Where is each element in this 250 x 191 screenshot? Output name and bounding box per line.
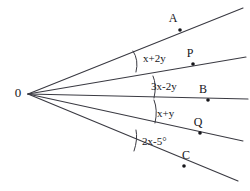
arc-angle-boq: [154, 100, 156, 123]
point-label-a: A: [169, 11, 178, 25]
point-label-q: Q: [194, 115, 203, 129]
arc-angle-qoc: [134, 130, 137, 151]
arc-angle-aop: [133, 51, 137, 72]
point-dot-b: [206, 98, 210, 102]
angle-label-boq: x+y: [157, 107, 175, 119]
ray-ob: [28, 94, 248, 99]
point-dot-c: [182, 164, 186, 168]
vertex-label-o: 0: [15, 85, 22, 100]
point-label-c: C: [182, 148, 190, 162]
point-label-p: P: [187, 46, 194, 60]
ray-oc: [28, 94, 238, 181]
ray-oq: [28, 94, 243, 141]
point-dot-p: [191, 62, 195, 66]
angle-label-qoc: 2x-5°: [142, 135, 167, 147]
diagram-canvas: 0 A P B Q C x+2y 3x-2y x+y 2x-5°: [0, 0, 250, 191]
point-dot-q: [198, 131, 202, 135]
angle-diagram: 0 A P B Q C x+2y 3x-2y x+y 2x-5°: [0, 0, 250, 191]
ray-group: [28, 8, 248, 181]
angle-label-pob: 3x-2y: [151, 80, 177, 92]
ray-oa: [28, 8, 243, 94]
point-dot-a: [178, 28, 182, 32]
point-label-b: B: [199, 82, 207, 96]
angle-label-aop: x+2y: [143, 52, 166, 64]
